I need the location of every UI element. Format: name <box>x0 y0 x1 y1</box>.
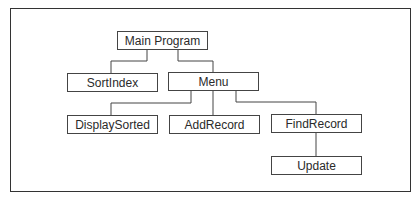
node-label: Menu <box>198 75 228 89</box>
node-findrecord: FindRecord <box>271 114 362 133</box>
edge-main-to-sortindex <box>111 49 147 73</box>
node-label: FindRecord <box>285 117 347 131</box>
node-label: Main Program <box>125 34 200 48</box>
node-menu: Menu <box>168 72 259 91</box>
node-addrecord: AddRecord <box>169 115 260 134</box>
edge-menu-to-displaysorted <box>111 90 191 115</box>
node-main-program: Main Program <box>117 31 208 50</box>
node-sortindex: SortIndex <box>67 73 158 92</box>
node-label: AddRecord <box>184 118 244 132</box>
edge-main-to-menu <box>178 49 213 72</box>
node-label: SortIndex <box>87 76 138 90</box>
node-label: DisplaySorted <box>75 118 150 132</box>
edge-menu-to-findrecord <box>236 90 316 114</box>
node-update: Update <box>271 156 362 175</box>
node-displaysorted: DisplaySorted <box>67 115 158 134</box>
node-label: Update <box>297 159 336 173</box>
